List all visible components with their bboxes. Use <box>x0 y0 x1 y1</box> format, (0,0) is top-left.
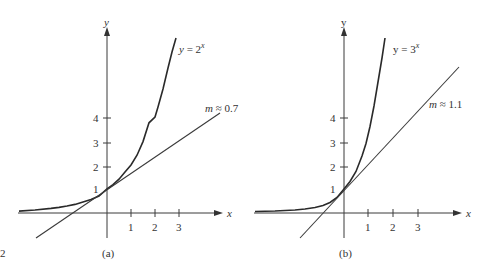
tangent-line-m-1-1 <box>300 67 459 238</box>
y-tick-label: 1 <box>93 183 99 195</box>
y-axis-label: y <box>341 16 347 28</box>
side-mark: 2 <box>0 247 6 259</box>
x-axis-arrow-icon <box>214 210 223 216</box>
x-tick-label: 1 <box>128 221 134 233</box>
x-tick-label: 2 <box>390 221 396 233</box>
y-tick-label: 1 <box>330 183 336 195</box>
y-tick-label: 4 <box>93 112 99 124</box>
y-tick-label: 2 <box>93 161 99 173</box>
tangent-label: m ≈ 0.7 <box>205 102 239 114</box>
x-tick-label: 3 <box>176 221 182 233</box>
caption-b: (b) <box>339 247 352 260</box>
panel-a: x y 1 2 3 1 2 3 4 y = 2x m ≈ 0.7 (a) <box>18 16 239 260</box>
caption-a: (a) <box>102 247 115 260</box>
curve-label: y = 3x <box>393 41 420 55</box>
x-axis-label: x <box>465 207 471 219</box>
y-tick-label: 3 <box>93 137 99 149</box>
x-tick-label: 1 <box>365 221 371 233</box>
y-tick-label: 3 <box>330 137 336 149</box>
y-axis-arrow-icon <box>341 27 347 36</box>
panel-b: x y 1 2 3 1 2 3 4 y = 3x m ≈ 1.1 (b) <box>254 16 471 260</box>
tangent-label: m ≈ 1.1 <box>429 98 462 110</box>
y-axis-arrow-icon <box>104 27 110 36</box>
x-tick-label: 2 <box>152 221 158 233</box>
y-tick-label: 4 <box>330 112 336 124</box>
figure: 2 x y 1 2 3 1 2 3 4 y = 2x m ≈ 0.7 <box>0 0 483 277</box>
tangent-line-m-0-7 <box>36 113 220 238</box>
curve-label: y = 2x <box>178 41 205 55</box>
x-axis-arrow-icon <box>453 210 462 216</box>
curve-3-pow-x <box>255 38 385 212</box>
y-tick-label: 2 <box>330 161 336 173</box>
x-axis-label: x <box>226 207 232 219</box>
y-axis-label: y <box>103 16 109 28</box>
x-tick-label: 3 <box>415 221 421 233</box>
